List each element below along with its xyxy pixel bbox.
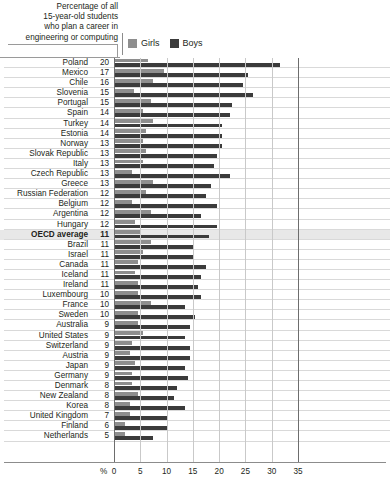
table-row: Argentina12 <box>0 209 390 219</box>
table-row: Germany9 <box>0 371 390 381</box>
table-row: Belgium12 <box>0 199 390 209</box>
bar-girls <box>114 321 138 325</box>
bar-girls <box>114 129 146 133</box>
table-row: Norway13 <box>0 139 390 149</box>
bar-girls <box>114 180 153 184</box>
bar-girls <box>114 79 153 83</box>
bar-girls <box>114 281 138 285</box>
bar-girls <box>114 220 135 224</box>
table-row: Canada11 <box>0 260 390 270</box>
bar-girls <box>114 170 132 174</box>
bar-girls <box>114 372 132 376</box>
table-row: Switzerland9 <box>0 341 390 351</box>
bar-girls <box>114 422 125 426</box>
bar-girls <box>114 119 153 123</box>
table-row: United States9 <box>0 331 390 341</box>
chart-legend: GirlsBoys <box>128 38 203 48</box>
table-row: Russian Federation12 <box>0 189 390 199</box>
table-row: Turkey14 <box>0 119 390 129</box>
bar-girls <box>114 250 143 254</box>
x-tick-label: 25 <box>241 467 250 476</box>
row-separator <box>4 441 390 442</box>
bar-girls <box>114 160 143 164</box>
x-tick-label: 15 <box>188 467 197 476</box>
x-axis: % 05101520253035 <box>0 462 390 493</box>
legend-swatch-boys <box>170 39 179 48</box>
table-row: Israel11 <box>0 250 390 260</box>
table-row: New Zealand8 <box>0 391 390 401</box>
table-row: Greece13 <box>0 179 390 189</box>
chart-rows: Poland20Mexico17Chile16Slovenia15Portuga… <box>0 58 390 462</box>
bar-girls <box>114 412 130 416</box>
x-tick-label: 5 <box>138 467 143 476</box>
bar-girls <box>114 301 151 305</box>
bar-girls <box>114 331 143 335</box>
header-rule-top <box>8 44 118 45</box>
table-row: Chile16 <box>0 78 390 88</box>
table-row: Finland6 <box>0 421 390 431</box>
table-row: Slovenia15 <box>0 88 390 98</box>
legend-swatch-girls <box>128 39 137 48</box>
legend-label: Boys <box>183 38 203 48</box>
table-row: Slovak Republic13 <box>0 149 390 159</box>
x-tick-label: 0 <box>112 467 117 476</box>
bar-girls <box>114 361 135 365</box>
bar-girls <box>114 149 146 153</box>
table-row: Ireland11 <box>0 280 390 290</box>
legend-item-girls: Girls <box>128 38 160 48</box>
bar-girls <box>114 311 138 315</box>
bar-girls <box>114 271 135 275</box>
bar-girls <box>114 230 140 234</box>
table-row: Czech Republic13 <box>0 169 390 179</box>
bar-girls <box>114 260 138 264</box>
table-row: Netherlands5 <box>0 431 390 441</box>
table-row: OECD average11 <box>0 230 390 240</box>
table-row: Japan9 <box>0 361 390 371</box>
bar-girls <box>114 59 148 63</box>
bar-girls <box>114 432 125 436</box>
table-row: Denmark8 <box>0 381 390 391</box>
bar-girls <box>114 89 134 93</box>
bar-girls <box>114 200 132 204</box>
bar-girls <box>114 351 130 355</box>
bar-girls <box>114 392 138 396</box>
legend-item-boys: Boys <box>170 38 203 48</box>
bar-girls <box>114 69 164 73</box>
table-row: Brazil11 <box>0 240 390 250</box>
chart-title-line: who plan a career in <box>0 22 118 32</box>
bar-girls <box>114 382 132 386</box>
table-row: Iceland11 <box>0 270 390 280</box>
table-row: Spain14 <box>0 108 390 118</box>
x-tick-label: 35 <box>293 467 302 476</box>
bar-girls <box>114 402 130 406</box>
legend-label: Girls <box>141 38 160 48</box>
table-row: Australia9 <box>0 320 390 330</box>
x-tick-label: 20 <box>215 467 224 476</box>
bar-girls <box>114 341 132 345</box>
table-row: United Kingdom7 <box>0 411 390 421</box>
x-axis-line <box>4 462 386 463</box>
x-tick-label: 10 <box>162 467 171 476</box>
chart-title-line: engineering or computing <box>0 33 118 43</box>
bar-girls <box>114 139 143 143</box>
table-row: Estonia14 <box>0 129 390 139</box>
bar-girls <box>114 210 151 214</box>
bar-girls <box>114 99 151 103</box>
table-row: Poland20 <box>0 58 390 68</box>
table-row: Italy13 <box>0 159 390 169</box>
x-tick-label: 30 <box>267 467 276 476</box>
legend-divider <box>122 33 123 55</box>
bar-chart-figure: Percentage of all15-year-old studentswho… <box>0 0 390 493</box>
chart-title-line: Percentage of all <box>0 2 118 12</box>
table-row: Sweden10 <box>0 310 390 320</box>
table-row: Mexico17 <box>0 68 390 78</box>
table-row: Korea8 <box>0 401 390 411</box>
table-row: Luxembourg10 <box>0 290 390 300</box>
chart-title-line: 15-year-old students <box>0 12 118 22</box>
table-row: Austria9 <box>0 351 390 361</box>
x-axis-unit-label: % <box>100 467 107 476</box>
table-row: Hungary12 <box>0 220 390 230</box>
chart-title: Percentage of all15-year-old studentswho… <box>0 2 118 43</box>
bar-girls <box>114 291 138 295</box>
header-tick-mark <box>117 44 118 57</box>
